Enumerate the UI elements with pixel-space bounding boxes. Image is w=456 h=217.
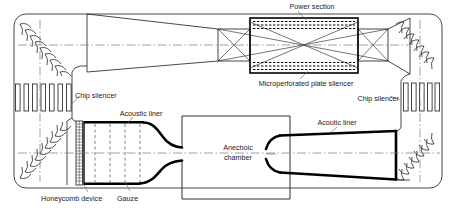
diffuser-lower-liner [280, 173, 396, 180]
collector-lower-bell [266, 159, 280, 173]
turning-vanes-bottom-right [394, 133, 434, 180]
collector-diffuser [266, 131, 396, 180]
leader-microperforated [300, 71, 308, 79]
leader-lines [72, 11, 400, 192]
diffuser-upper-wall [87, 14, 218, 29]
plenum-shoulder-top [72, 66, 87, 72]
label-acoustic-liner-left: Acoustic liner [120, 109, 163, 118]
nozzle-upper-contour [144, 123, 182, 148]
power-section-casing [250, 18, 358, 73]
nozzle-lower-contour [140, 161, 182, 184]
diffuser-lower-wall [87, 61, 218, 72]
collector-upper-bell [266, 136, 280, 150]
upper-return-leg [87, 14, 410, 74]
post-fan-flare-top [388, 18, 410, 29]
label-power-section: Power section [289, 2, 334, 11]
chip-silencer-left [16, 84, 72, 111]
label-microperforated-plate-silencer: Microperforated plate silencer [259, 79, 354, 88]
power-section [250, 18, 358, 73]
turning-vanes-top-right [394, 22, 434, 69]
turning-vanes-bottom-left [20, 119, 71, 179]
label-gauze: Gauze [117, 194, 138, 203]
label-chip-silencer-right: Chip silencer [357, 94, 399, 103]
aeroacoustic-wind-tunnel-diagram: Power section Microperforated plate sile… [0, 0, 456, 217]
microperforated-plate-silencer-lower [253, 63, 355, 70]
turning-vanes-top-left [20, 24, 71, 84]
label-acoustic-liner-right: Acoutic liner [317, 118, 357, 127]
label-honeycomb-device: Honeycomb device [41, 194, 102, 203]
chip-silencer-right [404, 83, 440, 111]
diffuser-upper-liner [280, 131, 396, 136]
label-anechoic-chamber-line1: Anechoic [223, 143, 253, 152]
label-anechoic-chamber-line2: chamber [224, 153, 253, 162]
leader-honeycomb [84, 185, 88, 192]
label-chip-silencer-left: Chip silencer [75, 91, 117, 100]
diagram-root: Power section Microperforated plate sile… [14, 2, 442, 203]
microperforated-plate-silencer-upper [253, 22, 355, 29]
post-fan-flare-bottom [388, 61, 410, 74]
